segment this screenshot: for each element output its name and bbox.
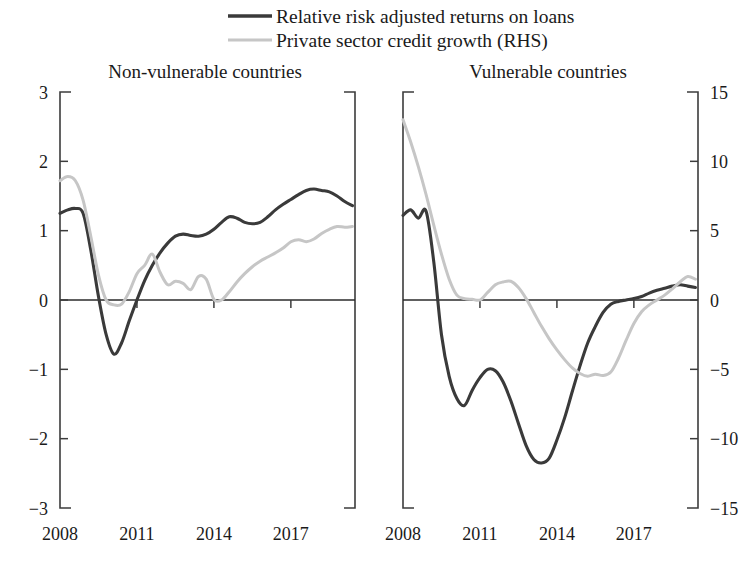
y-axis-tick-label-right: 10 xyxy=(710,152,728,172)
y-axis-tick-label-left: −2 xyxy=(29,429,48,449)
chart-svg: Relative risk adjusted returns on loans … xyxy=(0,0,753,570)
x-axis-tick-label: 2017 xyxy=(616,524,652,544)
y-axis-tick-label-left: 0 xyxy=(39,291,48,311)
chart-legend: Relative risk adjusted returns on loans … xyxy=(228,6,574,52)
legend-label-relative-risk-adjusted-returns: Relative risk adjusted returns on loans xyxy=(276,6,574,27)
x-axis-tick-label: 2008 xyxy=(42,524,78,544)
y-axis-tick-label-left: −3 xyxy=(29,499,48,519)
y-axis-tick-label-left: −1 xyxy=(29,360,48,380)
x-axis-tick-label: 2017 xyxy=(273,524,309,544)
y-axis-tick-label-left: 2 xyxy=(39,152,48,172)
y-axis-tick-label-right: −5 xyxy=(710,360,729,380)
y-axis-tick-label-right: −10 xyxy=(710,429,738,449)
x-axis-tick-label: 2011 xyxy=(462,524,497,544)
y-axis-tick-label-left: 1 xyxy=(39,221,48,241)
tick-labels-layer: 3210−1−2−32008201120142017151050−5−10−15… xyxy=(29,83,738,545)
series-line-relative-risk-adjusted-returns xyxy=(60,189,352,354)
series-layer xyxy=(60,120,695,463)
axes-layer xyxy=(60,92,698,508)
series-line-private-sector-credit-growth xyxy=(60,177,352,306)
x-axis-tick-label: 2011 xyxy=(119,524,154,544)
series-line-private-sector-credit-growth xyxy=(403,120,695,377)
y-axis-tick-label-right: 0 xyxy=(710,291,719,311)
panel-title-vulnerable: Vulnerable countries xyxy=(469,61,627,82)
x-axis-tick-label: 2008 xyxy=(385,524,421,544)
panel-title-non-vulnerable: Non-vulnerable countries xyxy=(108,61,302,82)
x-axis-tick-label: 2014 xyxy=(196,524,232,544)
y-axis-tick-label-left: 3 xyxy=(39,83,48,103)
y-axis-tick-label-right: 15 xyxy=(710,83,728,103)
y-axis-tick-label-right: −15 xyxy=(710,499,738,519)
panel-vulnerable: Vulnerable countries xyxy=(469,61,627,82)
legend-label-private-sector-credit-growth: Private sector credit growth (RHS) xyxy=(276,30,548,52)
figure-container: Relative risk adjusted returns on loans … xyxy=(0,0,753,570)
panel-non-vulnerable: Non-vulnerable countries xyxy=(108,61,302,82)
x-axis-tick-label: 2014 xyxy=(539,524,575,544)
y-axis-tick-label-right: 5 xyxy=(710,221,719,241)
